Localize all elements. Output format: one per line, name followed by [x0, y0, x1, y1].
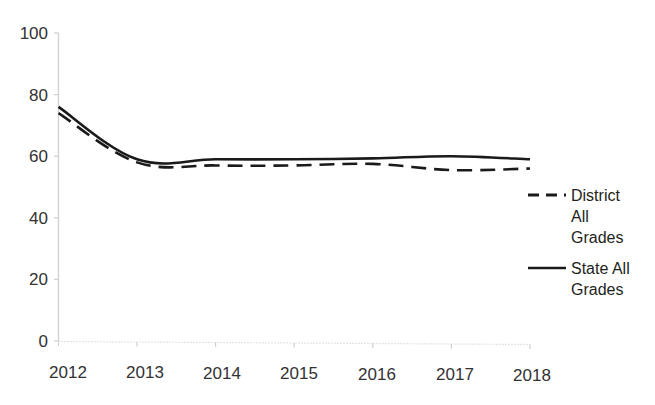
legend-label-state-line1: State All: [571, 260, 630, 277]
legend-label-state-line2: Grades: [571, 281, 623, 298]
legend-label-district-line2: All: [571, 208, 589, 225]
x-tick-marks: [59, 342, 531, 350]
series-line-state-all-grades: [59, 107, 531, 164]
x-tick-label-2016: 2016: [358, 365, 396, 384]
line-chart: 100 80 60 40 20 0 2012 2013 2014 2015 20…: [0, 0, 655, 405]
x-tick-label-2014: 2014: [203, 364, 241, 383]
y-tick-label-100: 100: [20, 24, 48, 43]
y-tick-label-60: 60: [29, 147, 48, 166]
legend-label-district-line1: District: [571, 187, 620, 204]
y-tick-label-20: 20: [29, 270, 48, 289]
chart-legend: District All Grades State All Grades: [528, 187, 630, 298]
x-tick-label-2015: 2015: [280, 364, 318, 383]
y-tick-label-80: 80: [29, 86, 48, 105]
x-tick-label-2012: 2012: [49, 363, 87, 382]
chart-canvas: 100 80 60 40 20 0 2012 2013 2014 2015 20…: [0, 0, 655, 405]
series-line-district-all-grades: [59, 113, 531, 170]
legend-label-district-line3: Grades: [571, 229, 623, 246]
x-tick-label-2018: 2018: [513, 366, 551, 385]
x-tick-label-2013: 2013: [126, 363, 164, 382]
x-tick-label-2017: 2017: [436, 365, 474, 384]
y-tick-label-0: 0: [39, 332, 48, 351]
y-tick-label-40: 40: [29, 209, 48, 228]
